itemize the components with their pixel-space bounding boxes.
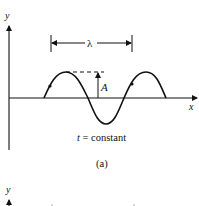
wave-point-2 bbox=[130, 82, 133, 85]
tick-mark-b-left bbox=[51, 204, 52, 205]
wave-diagram: y x λ A t = constant (a) y bbox=[0, 0, 199, 206]
x-axis-label: x bbox=[188, 101, 194, 112]
figure-b-partial: y bbox=[5, 184, 135, 206]
tick-mark-b-right bbox=[133, 204, 134, 205]
y-axis-label-b: y bbox=[5, 184, 11, 195]
wavelength-label: λ bbox=[87, 37, 93, 49]
figure-a: y x λ A t = constant (a) bbox=[4, 10, 197, 170]
condition-label-rest: = constant bbox=[80, 132, 126, 143]
figure-caption: (a) bbox=[96, 158, 108, 170]
condition-label: t = constant bbox=[77, 132, 126, 143]
wave-point-1 bbox=[48, 84, 51, 87]
y-axis-label: y bbox=[4, 10, 10, 21]
amplitude-label: A bbox=[100, 81, 108, 93]
